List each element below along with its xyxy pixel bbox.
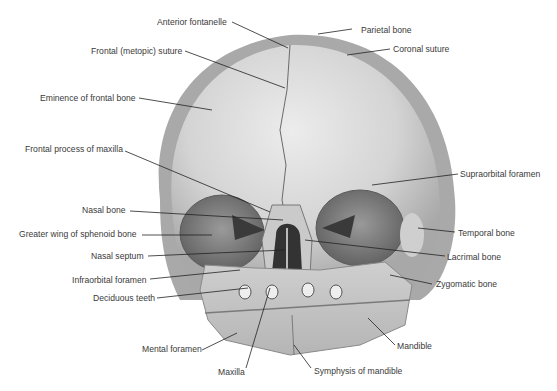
label-coronal-suture: Coronal suture	[393, 44, 449, 54]
label-frontal-metopic-suture: Frontal (metopic) suture	[91, 46, 182, 56]
label-deciduous-teeth: Deciduous teeth	[93, 293, 155, 303]
label-eminence-frontal-bone: Eminence of frontal bone	[40, 93, 136, 103]
label-lacrimal-bone: Lacrimal bone	[447, 252, 501, 262]
label-parietal-bone: Parietal bone	[361, 25, 412, 35]
label-anterior-fontanelle: Anterior fontanelle	[157, 17, 227, 27]
label-temporal-bone: Temporal bone	[458, 228, 515, 238]
label-supraorbital-foramen: Supraorbital foramen	[460, 169, 540, 179]
label-mental-foramen: Mental foramen	[142, 344, 202, 354]
skull-illustration	[0, 0, 557, 391]
label-symphysis-mandible: Symphysis of mandible	[314, 366, 402, 376]
label-maxilla: Maxilla	[218, 367, 245, 377]
label-zygomatic-bone: Zygomatic bone	[436, 279, 497, 289]
label-nasal-septum: Nasal septum	[91, 251, 144, 261]
label-frontal-process-maxilla: Frontal process of maxilla	[25, 144, 123, 154]
label-greater-wing-sphenoid: Greater wing of sphenoid bone	[19, 229, 137, 239]
label-mandible: Mandible	[397, 341, 432, 351]
anatomy-figure: Anterior fontanelle Parietal bone Fronta…	[0, 0, 557, 391]
label-nasal-bone: Nasal bone	[82, 205, 125, 215]
label-infraorbital-foramen: Infraorbital foramen	[72, 275, 147, 285]
